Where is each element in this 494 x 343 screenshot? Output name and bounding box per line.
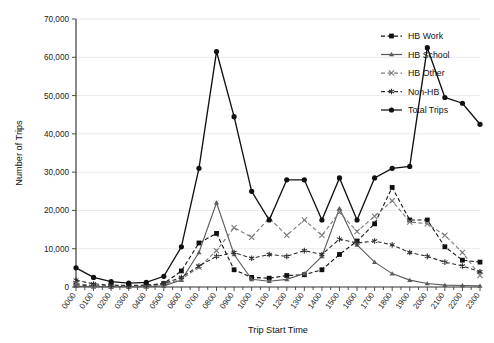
x-tick-label: 0400 bbox=[130, 291, 148, 311]
x-tick-label: 1700 bbox=[359, 291, 377, 311]
data-point-marker bbox=[302, 217, 307, 222]
x-axis-tick-labels: 0000010002000300040005000600070008000900… bbox=[60, 291, 482, 311]
data-point-marker bbox=[389, 107, 394, 112]
data-point-marker bbox=[179, 269, 184, 274]
data-point-marker bbox=[478, 260, 483, 265]
data-point-marker bbox=[249, 235, 254, 240]
data-point-marker bbox=[232, 267, 237, 272]
x-axis-title: Trip Start Time bbox=[248, 325, 308, 335]
legend-label-hb-other: HB Other bbox=[408, 68, 445, 78]
series-total-trips bbox=[73, 45, 482, 286]
data-point-marker bbox=[460, 101, 465, 106]
x-tick-label: 1500 bbox=[324, 291, 342, 311]
y-tick-label: 10,000 bbox=[44, 245, 69, 254]
x-tick-label: 0900 bbox=[218, 291, 236, 311]
y-tick-label: 0 bbox=[64, 283, 69, 292]
data-point-marker bbox=[319, 233, 324, 238]
x-tick-label: 1800 bbox=[376, 291, 394, 311]
data-point-marker bbox=[354, 229, 359, 234]
data-point-marker bbox=[302, 177, 307, 182]
data-point-marker bbox=[337, 206, 342, 210]
chart-legend: HB WorkHB SchoolHB OtherNon-HBTotal Trip… bbox=[381, 31, 450, 115]
data-point-marker bbox=[231, 114, 236, 119]
series-hb-other bbox=[73, 198, 482, 288]
legend-label-hb-school: HB School bbox=[408, 50, 450, 60]
y-tick-label: 50,000 bbox=[44, 92, 69, 101]
y-tick-label: 60,000 bbox=[44, 53, 69, 62]
series-line bbox=[76, 239, 480, 285]
x-tick-label: 1900 bbox=[394, 291, 412, 311]
data-point-marker bbox=[284, 233, 289, 238]
data-point-marker bbox=[249, 189, 254, 194]
data-point-marker bbox=[91, 275, 96, 280]
data-point-marker bbox=[126, 281, 131, 286]
x-tick-label: 1100 bbox=[254, 291, 272, 311]
data-point-marker bbox=[460, 258, 465, 263]
data-point-marker bbox=[214, 231, 219, 236]
data-point-marker bbox=[389, 34, 394, 39]
data-point-marker bbox=[161, 274, 166, 279]
x-tick-label: 2200 bbox=[446, 291, 464, 311]
data-point-marker bbox=[214, 49, 219, 54]
data-point-marker bbox=[109, 279, 114, 284]
data-point-marker bbox=[196, 250, 201, 254]
x-tick-label: 2000 bbox=[411, 291, 429, 311]
data-point-marker bbox=[390, 166, 395, 171]
y-tick-label: 30,000 bbox=[44, 168, 69, 177]
data-point-marker bbox=[214, 200, 219, 204]
legend-label-hb-work: HB Work bbox=[408, 31, 444, 41]
x-tick-label: 1000 bbox=[236, 291, 254, 311]
series-line bbox=[76, 201, 480, 286]
x-tick-label: 0700 bbox=[183, 291, 201, 311]
data-point-marker bbox=[267, 217, 272, 222]
series-hb-school bbox=[73, 200, 482, 288]
data-point-marker bbox=[73, 265, 78, 270]
x-tick-label: 1600 bbox=[341, 291, 359, 311]
y-axis-title: Number of Trips bbox=[14, 120, 24, 186]
data-point-marker bbox=[390, 185, 395, 190]
legend-label-non-hb: Non-HB bbox=[408, 87, 439, 97]
y-tick-group: 010,00020,00030,00040,00050,00060,00070,… bbox=[44, 15, 76, 292]
data-point-marker bbox=[179, 244, 184, 249]
data-point-marker bbox=[337, 252, 342, 257]
data-point-marker bbox=[319, 217, 324, 222]
x-tick-label: 1200 bbox=[271, 291, 289, 311]
series-group bbox=[73, 45, 482, 289]
data-point-marker bbox=[477, 122, 482, 127]
data-point-marker bbox=[196, 166, 201, 171]
data-point-marker bbox=[372, 175, 377, 180]
data-point-marker bbox=[372, 214, 377, 219]
x-tick-label: 0800 bbox=[201, 291, 219, 311]
x-tick-label: 0600 bbox=[165, 291, 183, 311]
data-point-marker bbox=[442, 244, 447, 249]
data-point-marker bbox=[372, 221, 377, 226]
data-point-marker bbox=[390, 198, 395, 203]
y-tick-label: 70,000 bbox=[44, 15, 69, 24]
data-point-marker bbox=[354, 217, 359, 222]
trip-start-time-line-chart: 010,00020,00030,00040,00050,00060,00070,… bbox=[0, 0, 494, 343]
x-tick-label: 0100 bbox=[78, 291, 96, 311]
data-point-marker bbox=[284, 177, 289, 182]
x-tick-label: 0500 bbox=[148, 291, 166, 311]
x-tick-label: 1300 bbox=[288, 291, 306, 311]
x-tick-label: 0000 bbox=[60, 291, 78, 311]
series-line bbox=[76, 203, 480, 287]
series-line bbox=[76, 48, 480, 283]
data-point-marker bbox=[197, 241, 202, 246]
legend-label-total-trips: Total Trips bbox=[408, 105, 449, 115]
x-tick-label: 0200 bbox=[95, 291, 113, 311]
data-point-marker bbox=[144, 280, 149, 285]
data-point-marker bbox=[442, 95, 447, 100]
data-point-marker bbox=[231, 225, 236, 230]
x-tick-label: 2300 bbox=[464, 291, 482, 311]
x-tick-label: 2100 bbox=[429, 291, 447, 311]
chart-container: 010,00020,00030,00040,00050,00060,00070,… bbox=[0, 0, 494, 343]
series-line bbox=[76, 187, 480, 286]
x-tick-label: 0300 bbox=[113, 291, 131, 311]
data-point-marker bbox=[337, 175, 342, 180]
x-tick-label: 1400 bbox=[306, 291, 324, 311]
data-point-marker bbox=[320, 267, 325, 272]
data-point-marker bbox=[460, 250, 465, 255]
y-tick-label: 20,000 bbox=[44, 206, 69, 215]
data-point-marker bbox=[442, 233, 447, 238]
